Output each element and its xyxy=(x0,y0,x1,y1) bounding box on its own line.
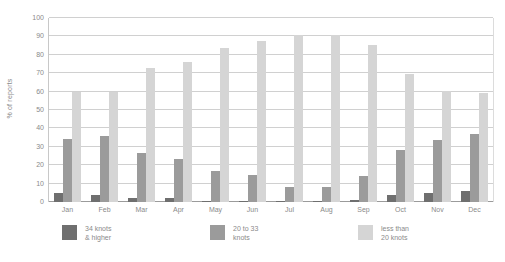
bar xyxy=(174,159,183,202)
y-axis-tick-label: 50 xyxy=(36,106,44,113)
bar xyxy=(183,62,192,202)
bar-group: Nov xyxy=(419,18,456,202)
bar xyxy=(54,193,63,202)
bar xyxy=(146,68,155,202)
bar-chart: % of reports 0102030405060708090100 JanF… xyxy=(0,0,505,262)
x-axis-tick-label: Aug xyxy=(308,206,345,213)
x-axis-tick-label: Jan xyxy=(49,206,86,213)
y-axis-tick-label: 30 xyxy=(36,142,44,149)
y-axis-tick-label: 20 xyxy=(36,161,44,168)
legend-swatch xyxy=(210,225,225,240)
bar xyxy=(202,201,211,202)
x-axis-tick-label: Nov xyxy=(419,206,456,213)
bar xyxy=(322,187,331,202)
x-axis-tick-label: Feb xyxy=(86,206,123,213)
y-axis-tick-label: 90 xyxy=(36,32,44,39)
legend-item[interactable]: 34 knots & higher xyxy=(48,224,198,258)
legend-label: 20 to 33 knots xyxy=(233,224,258,242)
x-axis-tick-label: Mar xyxy=(123,206,160,213)
bar xyxy=(396,150,405,202)
bar-group: Feb xyxy=(86,18,123,202)
bar xyxy=(276,201,285,202)
x-axis-tick-label: Oct xyxy=(382,206,419,213)
y-axis-tick-label: 10 xyxy=(36,179,44,186)
bar xyxy=(433,140,442,202)
bar xyxy=(109,92,118,202)
bar xyxy=(72,92,81,202)
y-axis-tick-label: 100 xyxy=(32,14,44,21)
bar xyxy=(424,193,433,202)
bar-group: May xyxy=(197,18,234,202)
x-axis-tick-label: Apr xyxy=(160,206,197,213)
bar xyxy=(294,35,303,202)
bar xyxy=(331,35,340,202)
bar xyxy=(368,45,377,202)
y-axis-tick-label: 60 xyxy=(36,87,44,94)
bar-group: Jun xyxy=(234,18,271,202)
legend-label: less than 20 knots xyxy=(381,224,409,242)
bar xyxy=(359,176,368,202)
bar xyxy=(239,201,248,202)
legend-item[interactable]: 20 to 33 knots xyxy=(198,224,346,258)
y-axis-title: % of reports xyxy=(6,59,13,139)
legend-swatch xyxy=(358,225,373,240)
bar xyxy=(350,200,359,202)
x-axis-tick-label: Jul xyxy=(271,206,308,213)
bar xyxy=(220,48,229,202)
bar-group: Aug xyxy=(308,18,345,202)
bar-group: Apr xyxy=(160,18,197,202)
legend-item[interactable]: less than 20 knots xyxy=(346,224,494,258)
x-axis-tick-label: Sep xyxy=(345,206,382,213)
y-axis-tick-label: 0 xyxy=(40,198,44,205)
bar xyxy=(128,198,137,202)
bar xyxy=(91,195,100,202)
legend-label: 34 knots & higher xyxy=(85,224,111,242)
bar xyxy=(405,74,414,202)
bar xyxy=(165,198,174,202)
bar xyxy=(137,153,146,202)
bar xyxy=(461,191,470,202)
bar xyxy=(211,171,220,202)
bar-group: Oct xyxy=(382,18,419,202)
bar xyxy=(100,136,109,202)
bar-group: Mar xyxy=(123,18,160,202)
y-axis-tick-label: 80 xyxy=(36,50,44,57)
plot-area: 0102030405060708090100 JanFebMarAprMayJu… xyxy=(48,18,494,202)
bar-group: Jul xyxy=(271,18,308,202)
bar-group: Sep xyxy=(345,18,382,202)
x-axis-tick-label: Dec xyxy=(456,206,493,213)
y-axis-tick-label: 40 xyxy=(36,124,44,131)
bar-group: Jan xyxy=(49,18,86,202)
bar xyxy=(285,187,294,202)
bar xyxy=(63,139,72,202)
chart-legend: 34 knots & higher20 to 33 knotsless than… xyxy=(48,224,494,258)
bar xyxy=(257,41,266,202)
bar xyxy=(479,93,488,202)
x-axis-tick-label: May xyxy=(197,206,234,213)
bar xyxy=(248,175,257,202)
bar xyxy=(387,195,396,202)
bar-groups: JanFebMarAprMayJunJulAugSepOctNovDec xyxy=(49,18,493,202)
bar xyxy=(442,91,451,202)
bar-group: Dec xyxy=(456,18,493,202)
y-axis-tick-label: 70 xyxy=(36,69,44,76)
x-axis-tick-label: Jun xyxy=(234,206,271,213)
legend-swatch xyxy=(62,225,77,240)
bar xyxy=(470,134,479,202)
bar xyxy=(313,201,322,202)
